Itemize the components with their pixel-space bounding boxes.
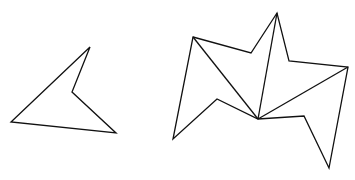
right-polygon — [173, 13, 348, 168]
diagonal-line-2 — [258, 13, 277, 119]
diagonal-line-1 — [193, 37, 258, 119]
diagram-canvas — [0, 0, 355, 180]
left-polygon — [11, 47, 116, 133]
diagonal-line-3 — [258, 67, 348, 119]
triangulation-diagonals — [193, 13, 348, 119]
